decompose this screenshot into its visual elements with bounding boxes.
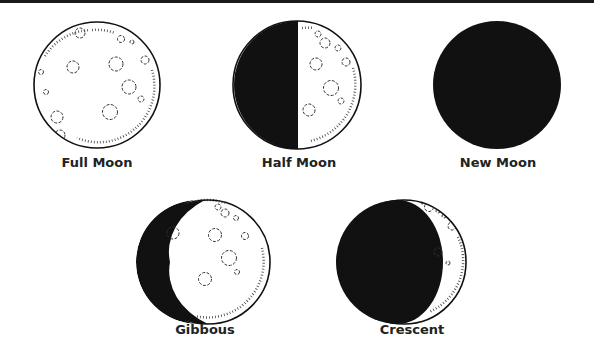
moon-phases-diagram [0,0,594,345]
moon-new [433,21,561,149]
label-full-moon: Full Moon [62,155,133,170]
label-crescent: Crescent [380,322,445,337]
label-gibbous: Gibbous [175,322,235,337]
moon-crescent [333,198,466,324]
moon-disc [433,21,561,149]
moon-disc [34,22,160,148]
label-new-moon: New Moon [460,155,536,170]
moon-gibbous [136,198,270,324]
moon-half [233,21,361,149]
label-half-moon: Half Moon [262,155,336,170]
moon-shadow [234,21,298,149]
moon-full [34,22,160,148]
